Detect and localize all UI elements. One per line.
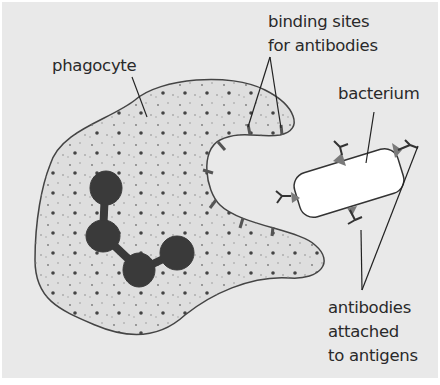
phagocyte-cell: [35, 79, 324, 334]
label-binding-sites-line2: for antibodies: [268, 36, 378, 56]
label-antibodies-line2: attached: [328, 322, 399, 342]
label-phagocyte: phagocyte: [52, 56, 136, 76]
label-bacterium: bacterium: [338, 84, 419, 104]
label-antibodies-line3: to antigens: [328, 346, 418, 366]
label-binding-sites-line1: binding sites: [268, 12, 369, 32]
label-antibodies-line1: antibodies: [328, 298, 411, 318]
